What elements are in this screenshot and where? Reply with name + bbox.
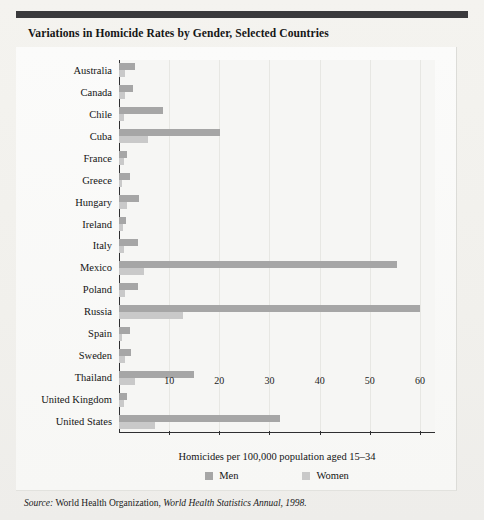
bar-women [119,246,124,253]
bar-women [119,224,123,231]
legend-label: Women [316,470,348,481]
country-label: Poland [83,285,112,296]
legend-item: Men [205,470,238,481]
bar-men [119,151,127,158]
country-label: Ireland [82,220,112,231]
bar-row: Poland [119,279,435,301]
chart-legend: MenWomen [119,470,435,481]
bar-men [119,129,220,136]
bar-row: Ireland [119,214,435,236]
top-rule-divider [16,11,468,18]
source-note: Source: World Health Organization, World… [24,498,307,508]
bar-women [119,356,125,363]
bar-women [119,312,183,319]
bar-men [119,239,138,246]
bar-women [119,290,125,297]
country-label: Greece [82,176,112,187]
bar-women [119,400,124,407]
bar-women [119,180,122,187]
bar-row: United Kingdom [119,389,435,411]
bar-row: Greece [119,170,435,192]
x-tick-label: 40 [315,375,325,386]
bar-men [119,107,163,114]
x-tick-label: 60 [415,375,425,386]
bar-row: Australia [119,60,435,82]
bar-men [119,63,135,70]
bar-men [119,283,138,290]
x-tick-label: 20 [214,375,224,386]
country-label: Sweden [79,351,112,362]
country-label: Mexico [80,263,112,274]
bar-men [119,371,194,378]
x-axis-title: Homicides per 100,000 population aged 15… [119,451,435,462]
bar-row: Spain [119,323,435,345]
bar-row: Hungary [119,192,435,214]
figure-page: Variations in Homicide Rates by Gender, … [0,0,484,520]
bar-women [119,158,124,165]
country-label: Hungary [75,198,112,209]
x-tick-label: 30 [264,375,274,386]
country-label: Italy [93,241,112,252]
country-label: Australia [74,66,113,77]
bar-men [119,349,131,356]
legend-item: Women [302,470,348,481]
bar-row: Canada [119,82,435,104]
country-label: United States [56,417,112,428]
source-publication: World Health Statistics Annual, 1998. [163,498,307,508]
bar-row: Cuba [119,126,435,148]
bar-men [119,393,127,400]
bar-men [119,85,133,92]
source-label: Source: [24,498,53,508]
bar-women [119,334,122,341]
legend-swatch-icon [302,472,310,480]
bar-row: Mexico [119,257,435,279]
bar-men [119,305,420,312]
country-label: Thailand [75,373,112,384]
bar-row: Sweden [119,345,435,367]
source-organization: World Health Organization, [53,498,163,508]
bar-women [119,422,155,429]
x-tick-label: 50 [365,375,375,386]
x-tick-label: 10 [164,375,174,386]
bar-women [119,136,148,143]
country-label: Spain [88,329,112,340]
country-label: Cuba [90,132,112,143]
bar-row: Chile [119,104,435,126]
country-label: France [83,154,112,165]
bar-men [119,173,130,180]
bar-men [119,415,280,422]
bar-women [119,92,125,99]
country-label: Chile [89,110,112,121]
bar-men [119,217,126,224]
bar-row: United States [119,411,435,433]
bar-women [119,70,125,77]
bar-men [119,327,130,334]
bar-women [119,202,127,209]
bar-women [119,268,144,275]
bar-row: Russia [119,301,435,323]
legend-swatch-icon [205,472,213,480]
figure-title: Variations in Homicide Rates by Gender, … [28,27,329,39]
bar-women [119,378,135,385]
bar-row: France [119,148,435,170]
bar-row: Italy [119,236,435,258]
country-label: United Kingdom [41,395,112,406]
legend-label: Men [219,470,238,481]
country-label: Canada [81,88,113,99]
country-label: Russia [84,307,112,318]
bar-men [119,261,397,268]
bar-men [119,195,139,202]
bar-women [119,114,124,121]
